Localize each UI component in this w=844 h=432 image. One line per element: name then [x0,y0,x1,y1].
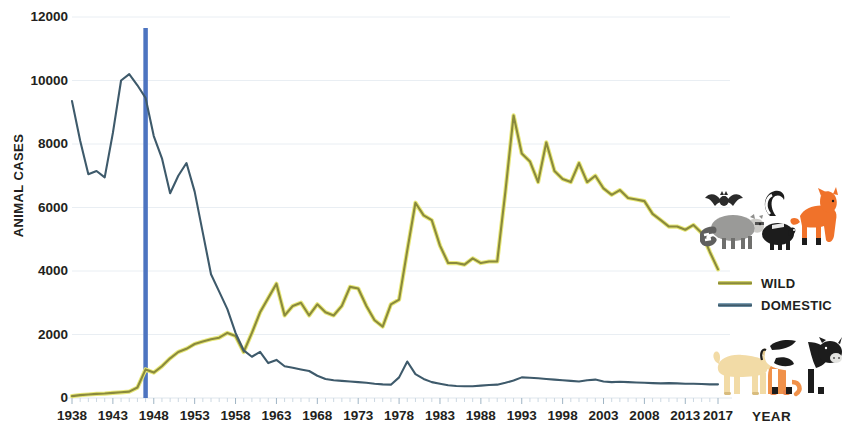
x-tick-label: 1983 [425,409,455,423]
x-tick-label: 1963 [261,409,291,423]
x-tick-label: 2008 [629,409,659,423]
x-tick-label: 1943 [98,409,128,423]
wild-animals-illustration [700,186,840,264]
x-tick-label: 1973 [343,409,373,423]
x-tick-label: 1993 [507,409,537,423]
x-tick-label: 2017 [703,409,733,423]
x-tick-label: 1968 [302,409,332,423]
x-axis-ticks [68,398,732,404]
skunk-icon [762,191,795,250]
cow-icon [761,337,842,394]
series-line-domestic [72,74,718,386]
x-tick-label: 1938 [57,409,87,423]
x-tick-label: 1988 [466,409,496,423]
legend-item-domestic: DOMESTIC [718,294,844,316]
legend-label-wild: WILD [761,276,795,291]
legend-swatch-wild [718,281,752,285]
bat-icon [705,191,743,206]
x-tick-label: 1953 [180,409,210,423]
raccoon-icon [703,214,764,249]
x-tick-label: 1948 [139,409,169,423]
x-tick-label: 1998 [548,409,578,423]
legend-swatch-domestic [718,303,752,307]
fox-icon [790,187,838,245]
x-tick-label: 1958 [221,409,251,423]
x-tick-label: 2003 [588,409,618,423]
legend-label-domestic: DOMESTIC [761,298,832,313]
series-line-halo-wild [72,115,718,396]
chart-container: ANIMAL CASES 020004000600080001000012000… [0,0,844,432]
chart-legend: WILD DOMESTIC [718,272,844,316]
data-series-group [72,74,718,396]
domestic-animals-illustration [712,336,842,402]
x-tick-label: 1978 [384,409,414,423]
series-line-wild [72,115,718,396]
legend-item-wild: WILD [718,272,844,294]
x-tick-label: 2013 [670,409,700,423]
